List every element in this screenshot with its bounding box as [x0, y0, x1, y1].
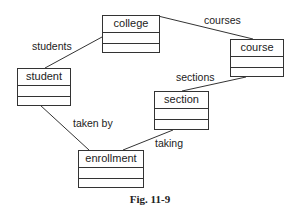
attributes-compartment: [231, 57, 283, 68]
attributes-compartment: [103, 33, 159, 44]
operations-compartment: [231, 68, 283, 78]
attributes-compartment: [155, 109, 208, 120]
class-box-enrollment: enrollment: [78, 150, 144, 188]
class-name: course: [231, 40, 283, 57]
operations-compartment: [79, 179, 143, 189]
association-label-sections: sections: [176, 71, 215, 83]
class-box-student: student: [17, 68, 71, 106]
association-label-taken-by: taken by: [73, 117, 113, 129]
attributes-compartment: [79, 168, 143, 179]
class-box-section: section: [154, 91, 209, 130]
class-box-college: college: [102, 15, 160, 53]
operations-compartment: [155, 120, 208, 130]
operations-compartment: [18, 97, 70, 107]
association-label-courses: courses: [204, 14, 241, 26]
operations-compartment: [103, 44, 159, 54]
class-name: student: [18, 69, 70, 86]
class-name: section: [155, 92, 208, 109]
association-label-taking: taking: [155, 137, 183, 149]
class-name: enrollment: [79, 151, 143, 168]
class-box-course: course: [230, 39, 284, 77]
association-label-students: students: [32, 40, 72, 52]
class-name: college: [103, 16, 159, 33]
figure-caption: Fig. 11-9: [0, 193, 300, 205]
attributes-compartment: [18, 86, 70, 97]
